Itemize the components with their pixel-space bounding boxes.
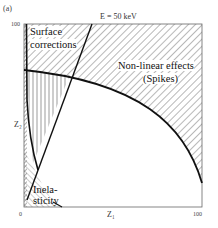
panel-label: (a)	[3, 4, 12, 13]
x-tick-max: 100	[193, 211, 202, 217]
energy-label: E = 50 keV	[100, 12, 137, 21]
x-tick-min: 0	[19, 211, 22, 217]
y-axis-label: Z₂	[14, 120, 22, 129]
nonlinear-label-line2: (Spikes)	[143, 73, 178, 84]
surface-label-line1: Surface	[30, 26, 62, 37]
inelastic-label-line1: Inela-	[33, 184, 57, 195]
surface-label-line2: corrections	[30, 39, 77, 50]
inelastic-label-line2: sticity	[33, 195, 59, 206]
nonlinear-label-line1: Non-linear effects	[118, 60, 194, 71]
x-axis-label: Z₁	[107, 210, 115, 219]
y-tick-max: 100	[11, 21, 20, 27]
